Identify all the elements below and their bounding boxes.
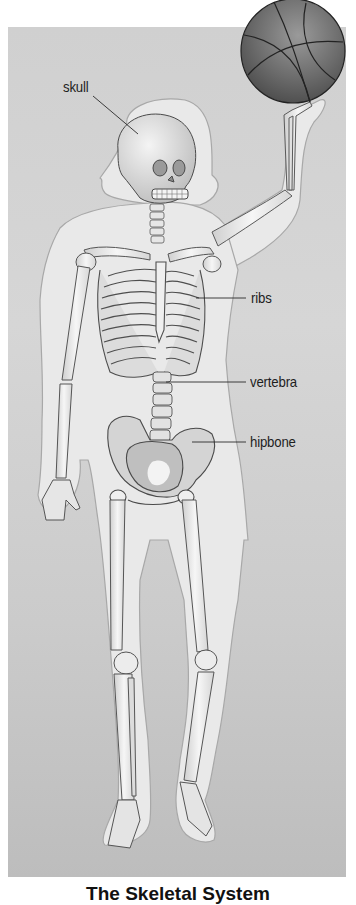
leg-bones [108, 500, 217, 848]
label-hipbone: hipbone [250, 433, 296, 450]
basketball [241, 0, 345, 103]
figure-caption: The Skeletal System [0, 883, 356, 905]
label-skull: skull [63, 78, 89, 95]
label-vertebra: vertebra [250, 373, 297, 390]
cervical-spine [150, 204, 164, 243]
label-ribs: ribs [251, 289, 272, 306]
